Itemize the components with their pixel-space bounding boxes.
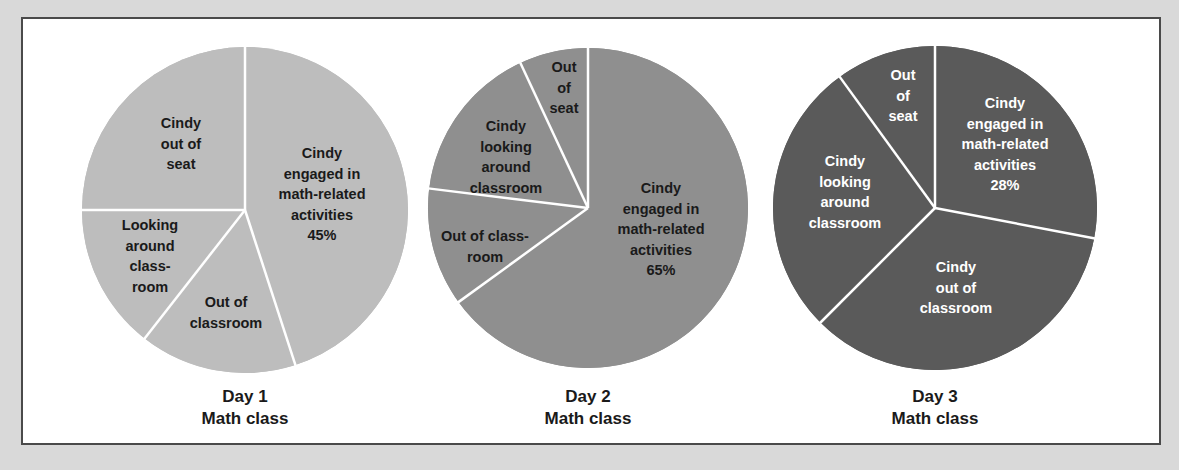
chart-caption: Day 3Math class <box>892 387 979 428</box>
slice-label: Cindyout ofseat <box>161 115 201 172</box>
pie-chart-day-2: Cindyengaged inmath-relatedactivities65%… <box>428 47 748 428</box>
chart-caption: Day 1Math class <box>202 387 289 428</box>
pie-chart-day-1: Cindyengaged inmath-relatedactivities45%… <box>81 46 408 428</box>
pie-chart-day-3: Cindyengaged inmath-relatedactivities28%… <box>773 45 1097 428</box>
chart-caption: Day 2Math class <box>545 387 632 428</box>
pie-charts-canvas: Cindyengaged inmath-relatedactivities45%… <box>0 0 1179 470</box>
